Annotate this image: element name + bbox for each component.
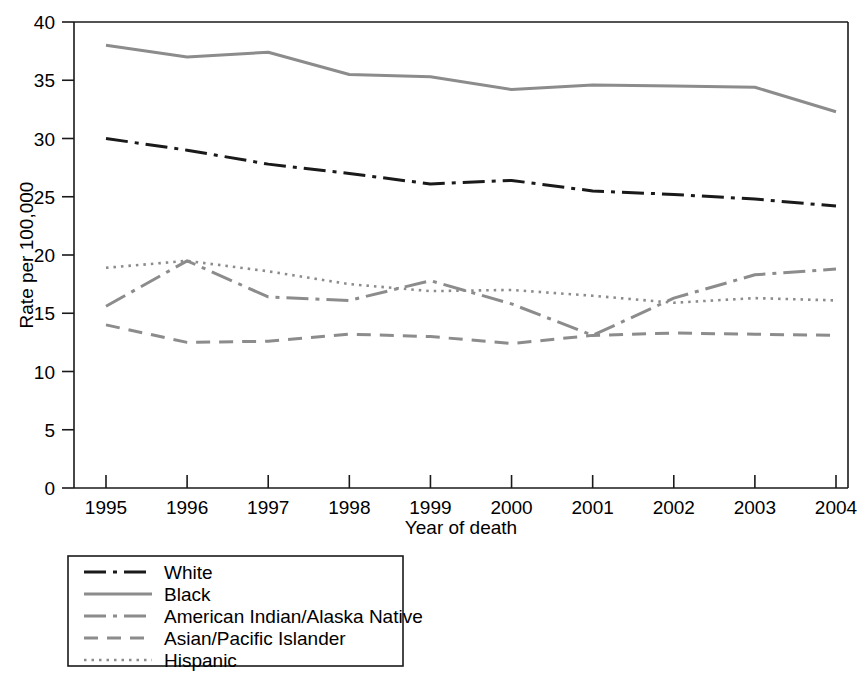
y-tick-label: 15 bbox=[34, 303, 55, 324]
x-tick-label: 1996 bbox=[166, 497, 208, 518]
y-tick-label: 20 bbox=[34, 245, 55, 266]
x-tick-label: 1998 bbox=[328, 497, 370, 518]
x-tick-label: 1997 bbox=[247, 497, 289, 518]
x-tick-label: 2004 bbox=[815, 497, 858, 518]
legend-label-white: White bbox=[164, 562, 213, 583]
legend-label-hispanic: Hispanic bbox=[164, 650, 237, 671]
series-line-white bbox=[106, 139, 836, 207]
x-axis-title: Year of death bbox=[405, 517, 517, 538]
y-tick-label: 30 bbox=[34, 129, 55, 150]
series-line-asian-pacific-islander bbox=[106, 325, 836, 344]
y-tick-label: 0 bbox=[44, 478, 55, 499]
series-line-american-indian-alaska-native bbox=[106, 261, 836, 336]
line-chart: 0510152025303540 19951996199719981999200… bbox=[0, 0, 865, 698]
chart-legend: WhiteBlackAmerican Indian/Alaska NativeA… bbox=[68, 556, 423, 671]
y-tick-label: 10 bbox=[34, 362, 55, 383]
chart-figure: 0510152025303540 19951996199719981999200… bbox=[0, 0, 865, 698]
axis-frame bbox=[74, 22, 848, 488]
x-tick-label: 2003 bbox=[734, 497, 776, 518]
series-layer bbox=[106, 45, 836, 343]
x-tick-label: 1995 bbox=[85, 497, 127, 518]
legend-label-american-indian-alaska-native: American Indian/Alaska Native bbox=[164, 606, 423, 627]
y-axis-ticks: 0510152025303540 bbox=[34, 12, 74, 499]
x-tick-label: 2000 bbox=[490, 497, 532, 518]
x-tick-label: 1999 bbox=[409, 497, 451, 518]
y-tick-label: 35 bbox=[34, 70, 55, 91]
y-tick-label: 40 bbox=[34, 12, 55, 33]
y-tick-label: 5 bbox=[44, 420, 55, 441]
legend-label-asian-pacific-islander: Asian/Pacific Islander bbox=[164, 628, 346, 649]
series-line-black bbox=[106, 45, 836, 111]
legend-label-black: Black bbox=[164, 584, 211, 605]
series-line-hispanic bbox=[106, 261, 836, 303]
y-axis-title: Rate per 100,000 bbox=[16, 182, 37, 329]
y-tick-label: 25 bbox=[34, 187, 55, 208]
x-axis-ticks: 1995199619971998199920002001200220032004 bbox=[85, 475, 858, 518]
x-tick-label: 2001 bbox=[572, 497, 614, 518]
x-tick-label: 2002 bbox=[653, 497, 695, 518]
